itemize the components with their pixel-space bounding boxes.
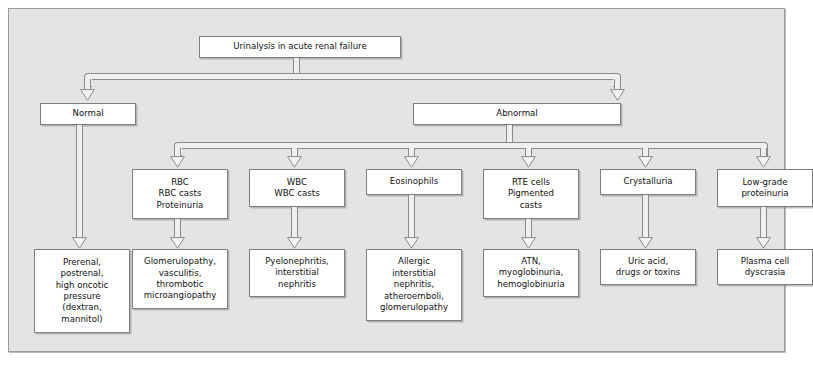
diagram-panel: Urinalysis in acute renal failure Normal… bbox=[8, 8, 785, 352]
connector-findings-bus bbox=[179, 142, 763, 149]
connector-root-stem bbox=[293, 58, 300, 73]
arrowhead-to-uricacid bbox=[638, 237, 653, 249]
connector-eosinophils-to-allergic bbox=[408, 195, 415, 238]
connector-wbc-to-pyelonephritis bbox=[291, 207, 298, 238]
arrowhead-to-plasmacell bbox=[756, 237, 771, 249]
node-diagnosis-atn: ATN, myoglobinuria, hemoglobinuria bbox=[483, 249, 579, 297]
connector-crystalluria-to-uricacid bbox=[642, 195, 649, 238]
connector-rbc-to-glomerulopathy bbox=[174, 219, 181, 238]
arrowhead-to-normal bbox=[80, 89, 95, 101]
node-diagnosis-pyelonephritis: Pyelonephritis, interstitial nephritis bbox=[249, 249, 345, 297]
node-finding-lowgrade: Low-grade proteinuria bbox=[717, 169, 813, 207]
arrowhead-to-prerenal bbox=[72, 237, 87, 249]
arrowhead-to-abnormal bbox=[610, 89, 625, 101]
node-root: Urinalysis in acute renal failure bbox=[199, 36, 401, 58]
arrowhead-to-eosinophils bbox=[404, 156, 419, 168]
arrowhead-to-allergic bbox=[404, 237, 419, 249]
node-abnormal: Abnormal bbox=[413, 103, 621, 125]
connector-normal-to-prerenal bbox=[76, 125, 83, 238]
arrowhead-to-wbc bbox=[287, 156, 302, 168]
node-finding-rbc: RBC RBC casts Proteinuria bbox=[132, 169, 228, 219]
node-finding-eosinophils: Eosinophils bbox=[366, 169, 462, 195]
node-diagnosis-uricacid: Uric acid, drugs or toxins bbox=[600, 249, 696, 285]
node-normal: Normal bbox=[40, 103, 136, 125]
arrowhead-to-crystalluria bbox=[638, 156, 653, 168]
arrowhead-to-atn bbox=[521, 237, 536, 249]
node-finding-wbc: WBC WBC casts bbox=[249, 169, 345, 207]
node-finding-crystalluria: Crystalluria bbox=[600, 169, 696, 195]
connector-abnormal-stem bbox=[506, 125, 513, 142]
arrowhead-to-pyelonephritis bbox=[287, 237, 302, 249]
connector-rte-to-atn bbox=[525, 219, 532, 238]
arrowhead-to-rte bbox=[521, 156, 536, 168]
arrowhead-to-rbc bbox=[170, 156, 185, 168]
connector-lowgrade-to-plasmacell bbox=[760, 207, 767, 238]
node-diagnosis-allergic: Allergic interstitial nephritis, atheroe… bbox=[366, 249, 462, 321]
arrowhead-to-glomerulopathy bbox=[170, 237, 185, 249]
connector-level1-bus bbox=[89, 73, 616, 80]
node-diagnosis-plasmacell: Plasma cell dyscrasia bbox=[717, 249, 813, 285]
node-finding-rte: RTE cells Pigmented casts bbox=[483, 169, 579, 219]
node-diagnosis-prerenal: Prerenal, postrenal, high oncotic pressu… bbox=[34, 249, 130, 333]
arrowhead-to-lowgrade bbox=[756, 156, 771, 168]
node-diagnosis-glomerulopathy: Glomerulopathy, vasculitis, thrombotic m… bbox=[132, 249, 228, 309]
